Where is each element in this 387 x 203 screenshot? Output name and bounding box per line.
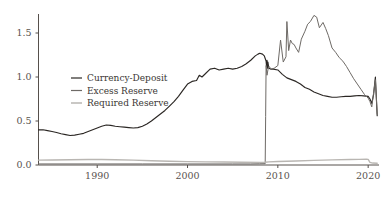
- y-tick-label: 0.5: [16, 115, 31, 126]
- legend-label: Required Reserve: [87, 98, 169, 108]
- legend-label: Excess Reserve: [87, 86, 158, 96]
- x-tick-label: 2000: [175, 170, 199, 181]
- legend-label: Currency-Deposit: [87, 73, 168, 83]
- chart-figure: 0.00.51.01.51990200020102020Currency-Dep…: [0, 0, 387, 203]
- series-line-required-reserve: [39, 159, 378, 163]
- y-tick-label: 0.0: [16, 159, 31, 170]
- line-chart-canvas: 0.00.51.01.51990200020102020Currency-Dep…: [0, 0, 387, 203]
- x-tick-label: 2010: [266, 170, 290, 181]
- x-tick-label: 1990: [85, 170, 109, 181]
- y-tick-label: 1.0: [16, 71, 31, 82]
- x-tick-label: 2020: [356, 170, 380, 181]
- y-tick-label: 1.5: [16, 27, 31, 38]
